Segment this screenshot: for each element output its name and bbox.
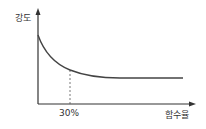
x-axis-label: 함수율 — [165, 108, 189, 121]
y-axis — [36, 8, 41, 104]
x-axis-arrow-icon — [189, 102, 196, 107]
x-axis — [38, 102, 196, 107]
y-axis-arrow-icon — [36, 8, 41, 15]
strength-curve — [38, 35, 183, 78]
y-axis-label: 강도 — [15, 11, 31, 24]
marker-label: 30% — [59, 108, 79, 118]
